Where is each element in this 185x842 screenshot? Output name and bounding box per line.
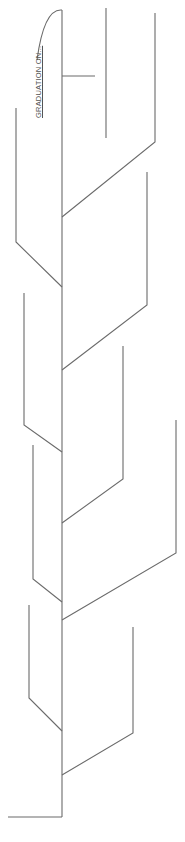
right-bone-r1 xyxy=(62,13,155,217)
right-bone-r4 xyxy=(62,420,176,620)
left-bone-l1 xyxy=(16,108,62,287)
left-bones xyxy=(16,108,62,731)
right-bone-r5 xyxy=(62,627,133,775)
fishbone-diagram xyxy=(0,0,185,842)
right-bone-r3 xyxy=(62,346,123,523)
left-bone-l4 xyxy=(29,605,62,731)
effect-label: GRADUATION ON... xyxy=(34,46,43,118)
left-bone-l2 xyxy=(24,293,62,452)
right-bone-r2 xyxy=(62,172,147,370)
left-bone-l3 xyxy=(33,445,62,602)
right-bones xyxy=(62,13,176,775)
